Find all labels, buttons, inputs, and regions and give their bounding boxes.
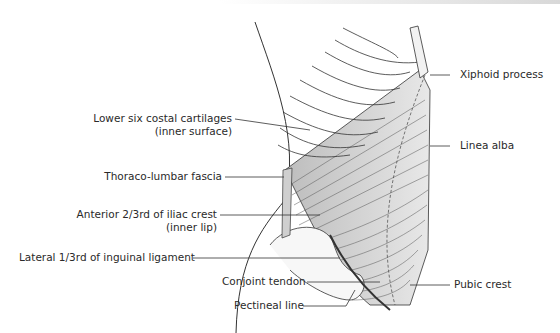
label-xiphoid-process: Xiphoid process [460, 68, 543, 81]
thoracolumbar-fascia-shape [282, 168, 292, 238]
label-text: Linea alba [460, 139, 514, 152]
label-conjoint-tendon: Conjoint tendon [222, 275, 306, 288]
label-linea-alba: Linea alba [460, 139, 514, 152]
label-text: Thoraco-lumbar fascia [60, 170, 222, 183]
label-text: Anterior 2/3rd of iliac crest [40, 208, 217, 221]
label-iliac-crest: Anterior 2/3rd of iliac crest (inner lip… [40, 208, 217, 234]
xiphoid-shape [410, 26, 428, 78]
label-costal-cartilages: Lower six costal cartilages (inner surfa… [60, 112, 232, 138]
label-pectineal-line: Pectineal line [234, 299, 304, 312]
label-text: (inner lip) [40, 221, 217, 234]
label-inguinal-ligament: Lateral 1/3rd of inguinal ligament [19, 251, 195, 264]
label-pubic-crest: Pubic crest [454, 278, 511, 291]
label-text: Lower six costal cartilages [60, 112, 232, 125]
label-text: Lateral 1/3rd of inguinal ligament [19, 251, 195, 264]
label-thoraco-lumbar-fascia: Thoraco-lumbar fascia [60, 170, 222, 183]
label-text: (inner surface) [60, 125, 232, 138]
label-text: Xiphoid process [460, 68, 543, 81]
label-text: Conjoint tendon [222, 275, 306, 288]
label-text: Pectineal line [234, 299, 304, 312]
label-text: Pubic crest [454, 278, 511, 291]
